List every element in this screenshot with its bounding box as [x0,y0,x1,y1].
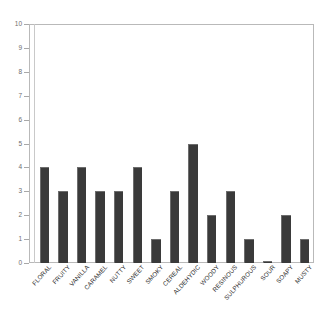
bar-slot [58,24,68,263]
bar-slot [263,24,273,263]
bar-slot [300,24,310,263]
y-axis-tick-label: 4 [2,164,22,171]
y-axis-tick-label: 2 [2,212,22,219]
bar-slot [244,24,254,263]
bar-slot [188,24,198,263]
bar [207,215,217,263]
bar-slot [114,24,124,263]
bar-slot [95,24,105,263]
bars-container [35,24,314,263]
x-axis-tick-label: NUTTY [108,264,127,284]
bar-slot [281,24,291,263]
bar [58,191,68,263]
bar [188,144,198,264]
y-axis-tick-label: 5 [2,141,22,148]
bar [133,167,143,263]
bar-slot [226,24,236,263]
y-axis-tick-label: 1 [2,236,22,243]
y-axis-tick-label: 10 [2,21,22,28]
y-axis-tick-label: 6 [2,117,22,124]
bar [151,239,161,263]
y-axis-tick-label: 7 [2,93,22,100]
bar-slot [170,24,180,263]
y-axis-tick [24,48,29,49]
bar-slot [40,24,50,263]
bar [226,191,236,263]
bar [40,167,50,263]
bar-slot [133,24,143,263]
bar [281,215,291,263]
bar-slot [77,24,87,263]
bar [300,239,310,263]
bar-chart: 012345678910 FLORALFRUITYVANILLACARAMELN… [0,0,327,329]
y-axis-tick [24,120,29,121]
x-axis-labels: FLORALFRUITYVANILLACARAMELNUTTYSWEETSMOK… [35,264,314,329]
bar [95,191,105,263]
y-axis-tick [24,72,29,73]
bar-slot [207,24,217,263]
bar [244,239,254,263]
x-axis-tick-label: FLORAL [32,264,53,287]
x-axis-tick-label: SWEET [126,264,146,285]
y-axis-tick-label: 9 [2,45,22,52]
y-axis-tick [24,167,29,168]
y-axis-tick [24,191,29,192]
y-axis-tick-label: 8 [2,69,22,76]
y-axis-tick-label: 3 [2,188,22,195]
y-axis-tick [24,96,29,97]
y-axis-tick [24,144,29,145]
bar [77,167,87,263]
y-axis-tick [24,263,29,264]
bar-slot [151,24,161,263]
bar [170,191,180,263]
y-axis-tick [24,215,29,216]
bar [114,191,124,263]
y-axis-tick [24,24,29,25]
y-axis-tick [24,239,29,240]
x-axis-tick-label: MUSTY [294,264,314,285]
y-axis-tick-label: 0 [2,260,22,267]
x-axis-tick-label: SOAPY [275,264,294,285]
